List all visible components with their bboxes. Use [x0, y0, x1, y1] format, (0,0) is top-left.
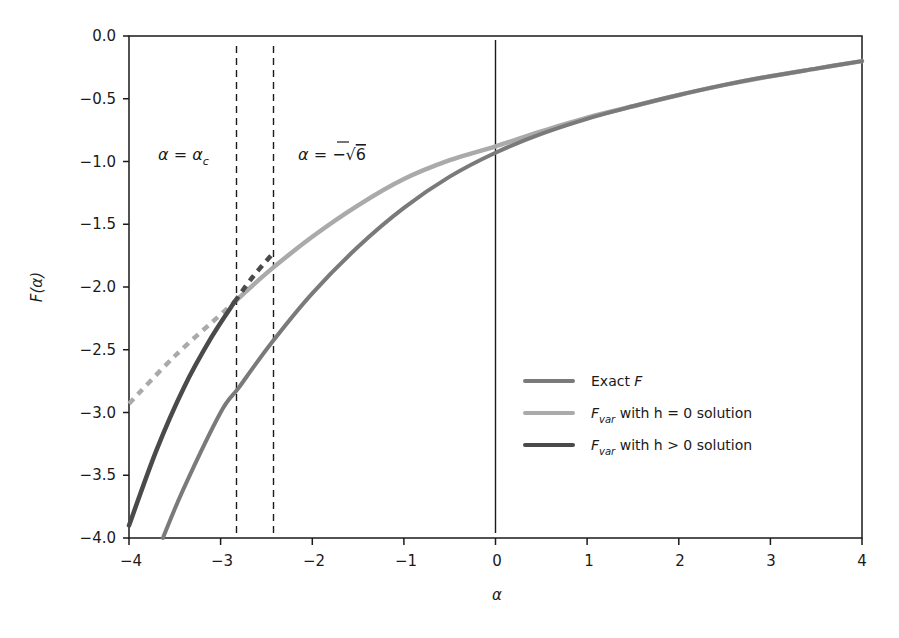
x-tick-label: −4: [120, 552, 142, 570]
alpha-c-annotation: α = αc: [158, 145, 209, 168]
y-tick-label: −2.0: [80, 278, 116, 296]
y-tick-label: −3.0: [80, 404, 116, 422]
y-tick-label: 0.0: [92, 27, 116, 45]
y-tick-label: −3.5: [80, 466, 116, 484]
y-tick-label: −2.5: [80, 341, 116, 359]
x-tick-label: 3: [766, 552, 776, 570]
x-tick-label: −2: [303, 552, 325, 570]
legend-label: Fvar with h = 0 solution: [591, 405, 752, 425]
x-tick-label: 1: [584, 552, 594, 570]
sqrt6-annotation: α = −√6: [298, 145, 366, 164]
legend-item-exact: Exact F: [525, 373, 643, 389]
fvar-h-zero-curve: [234, 61, 862, 302]
x-tick-label: 2: [675, 552, 685, 570]
y-tick-label: −0.5: [80, 90, 116, 108]
y-tick-label: −4.0: [80, 529, 116, 547]
legend-label: Exact F: [591, 373, 643, 389]
x-tick-label: −3: [211, 552, 233, 570]
x-axis-title: α: [492, 586, 502, 604]
y-axis-title: F(α): [28, 272, 46, 302]
chart-canvas: 0.0 −0.5 −1.0 −1.5 −2.0 −2.5 −3.0 −3.5 −…: [0, 0, 899, 638]
y-tick-label: −1.0: [80, 153, 116, 171]
exact-f-curve: [163, 61, 862, 538]
x-axis-tick-labels: −4 −3 −2 −1 0 1 2 3 4: [120, 552, 867, 570]
y-axis-ticks: [123, 36, 129, 538]
legend-label: Fvar with h > 0 solution: [591, 437, 752, 457]
x-tick-label: 0: [492, 552, 502, 570]
legend-item-h-positive: Fvar with h > 0 solution: [525, 437, 752, 457]
legend: Exact F Fvar with h = 0 solution Fvar wi…: [525, 373, 752, 457]
legend-item-h-zero: Fvar with h = 0 solution: [525, 405, 752, 425]
y-tick-label: −1.5: [80, 215, 116, 233]
y-axis-tick-labels: 0.0 −0.5 −1.0 −1.5 −2.0 −2.5 −3.0 −3.5 −…: [80, 27, 116, 547]
x-tick-label: 4: [857, 552, 867, 570]
x-tick-label: −1: [395, 552, 417, 570]
x-axis-ticks: [129, 538, 862, 545]
